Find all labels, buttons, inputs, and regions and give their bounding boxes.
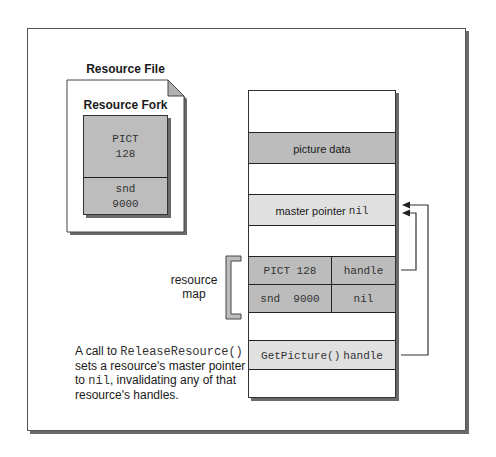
caption-function: ReleaseResource()	[120, 345, 242, 359]
resource-map-label-line: map	[165, 287, 223, 301]
caption-prefix: A call to	[75, 344, 120, 358]
caption-text: A call to ReleaseResource() sets a resou…	[75, 344, 255, 402]
bracket-icon	[226, 256, 241, 319]
resource-map-label-line: resource	[165, 273, 223, 287]
arrowhead-icon	[402, 210, 410, 217]
arrowhead-icon	[402, 202, 410, 209]
caption-nil: nil	[88, 374, 110, 388]
arrow-resource-map-to-master-pointer	[401, 213, 416, 270]
resource-map-label: resource map	[165, 273, 223, 301]
arrow-getpicture-to-master-pointer	[401, 205, 428, 355]
